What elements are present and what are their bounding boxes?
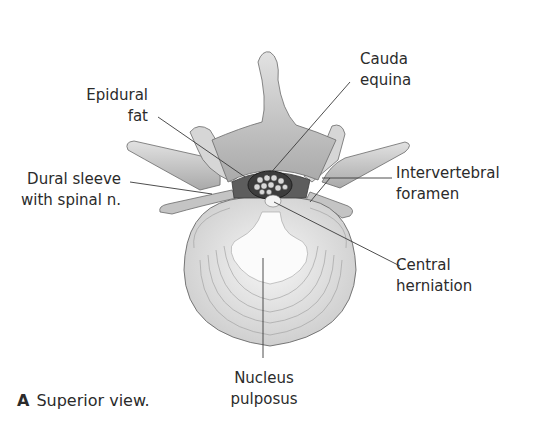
label-cauda-equina: Cauda equina bbox=[360, 49, 411, 91]
intervertebral-disc bbox=[184, 196, 356, 346]
label-epidural-fat: Epidural fat bbox=[78, 85, 148, 127]
figure-caption: ASuperior view. bbox=[17, 391, 150, 410]
label-nucleus-pulposus: Nucleus pulposus bbox=[226, 368, 302, 410]
vertebra-illustration bbox=[0, 0, 543, 425]
vertebral-arch bbox=[190, 52, 345, 182]
label-dural-sleeve: Dural sleeve with spinal n. bbox=[10, 169, 121, 211]
vertebra-diagram: Epidural fat Dural sleeve with spinal n.… bbox=[0, 0, 543, 425]
label-intervertebral-foramen: Intervertebral foramen bbox=[396, 163, 500, 205]
label-central-herniation: Central herniation bbox=[396, 255, 472, 297]
caption-text: Superior view. bbox=[36, 391, 149, 410]
herniation-bulge bbox=[265, 195, 281, 207]
caption-letter: A bbox=[17, 391, 29, 410]
